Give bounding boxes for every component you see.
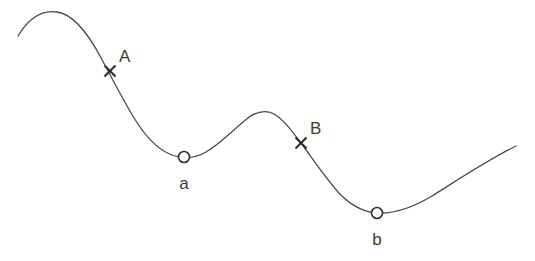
marker-a: a xyxy=(179,152,190,194)
marker-A: A xyxy=(105,47,132,77)
point-label-a: a xyxy=(179,174,189,193)
curve-path xyxy=(18,12,516,213)
point-label-b: b xyxy=(372,230,381,249)
curve-figure: A a B b xyxy=(0,0,535,261)
circle-icon-b xyxy=(372,208,383,219)
point-label-B: B xyxy=(310,119,321,138)
marker-b: b xyxy=(372,208,383,250)
figure-canvas: A a B b xyxy=(0,0,535,261)
point-label-A: A xyxy=(119,47,131,66)
marker-B: B xyxy=(296,119,322,149)
circle-icon-a xyxy=(179,152,190,163)
